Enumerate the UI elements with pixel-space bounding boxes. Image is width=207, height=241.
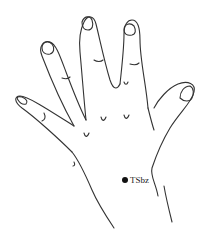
knuckle-mark	[124, 82, 128, 84]
index-finger-nail	[124, 24, 135, 35]
knuckle-mark	[124, 115, 129, 118]
middle-finger-outline	[80, 17, 120, 120]
thumb-outline	[152, 82, 195, 196]
thumb-nail	[180, 86, 193, 101]
hand-diagram: TSbz	[0, 0, 207, 241]
knuckle-mark	[84, 133, 89, 136]
acupoint-label: TSbz	[130, 175, 149, 185]
hand-outline-drawing	[0, 0, 207, 241]
index-finger-outline	[120, 20, 148, 108]
acupoint-marker	[122, 177, 128, 183]
wrist-outline-left	[72, 152, 114, 228]
knuckle-mark	[101, 117, 106, 120]
ring-finger-nail	[42, 42, 54, 54]
wrist-outline-right	[164, 186, 172, 222]
